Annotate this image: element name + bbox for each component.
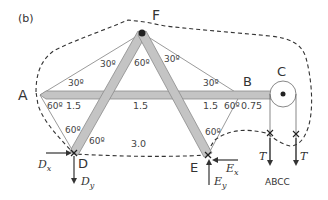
- pin-F: [139, 30, 146, 37]
- angle-F-inner: 60º: [134, 58, 150, 68]
- point-label-E: E: [190, 160, 198, 175]
- dimension-2: 1.5: [133, 100, 148, 111]
- bottom-caption: ABCC: [265, 177, 290, 187]
- dimension-base: 3.0: [131, 138, 146, 149]
- angle-A-lower: 60º: [47, 101, 63, 111]
- angle-F-left: 30º: [100, 59, 116, 69]
- dimension-1: 1.5: [66, 100, 81, 111]
- angle-A-upper: 30º: [68, 78, 84, 88]
- angle-E-upper: 60º: [205, 127, 221, 137]
- tension-arrow-right: [293, 138, 299, 166]
- tension-label-left: T: [259, 150, 268, 163]
- angle-F-right: 30º: [164, 54, 180, 64]
- point-label-F: F: [152, 7, 160, 23]
- dimension-4: 0.75: [241, 100, 262, 111]
- figure-label: (b): [18, 12, 34, 25]
- force-label-Dx: Dx: [37, 158, 52, 173]
- member-AC: [40, 91, 282, 99]
- tension-label-right: T: [300, 150, 309, 163]
- angle-D-upper: 60º: [65, 125, 81, 135]
- force-arrow-Dy: [71, 156, 77, 184]
- truss-diagram: (b) A B C D E F 30º 60º 30º 60º 30º 30º …: [0, 0, 328, 200]
- angle-B-lower: 60º: [224, 101, 240, 111]
- force-arrow-Ey: [206, 159, 212, 185]
- force-arrow-Dx: [46, 150, 72, 156]
- force-arrow-Ex: [212, 157, 238, 163]
- pulley-axle: [281, 92, 286, 97]
- angle-B-upper: 30º: [203, 78, 219, 88]
- force-label-Ex: Ex: [225, 162, 239, 177]
- point-label-D: D: [78, 156, 88, 171]
- point-label-B: B: [243, 74, 252, 89]
- tension-arrow-left: [267, 138, 273, 166]
- force-label-Dy: Dy: [80, 175, 95, 190]
- angle-D-right: 60º: [89, 136, 105, 146]
- point-label-A: A: [18, 87, 28, 103]
- point-label-C: C: [277, 64, 286, 79]
- force-label-Ey: Ey: [213, 175, 227, 190]
- dimension-3: 1.5: [203, 100, 218, 111]
